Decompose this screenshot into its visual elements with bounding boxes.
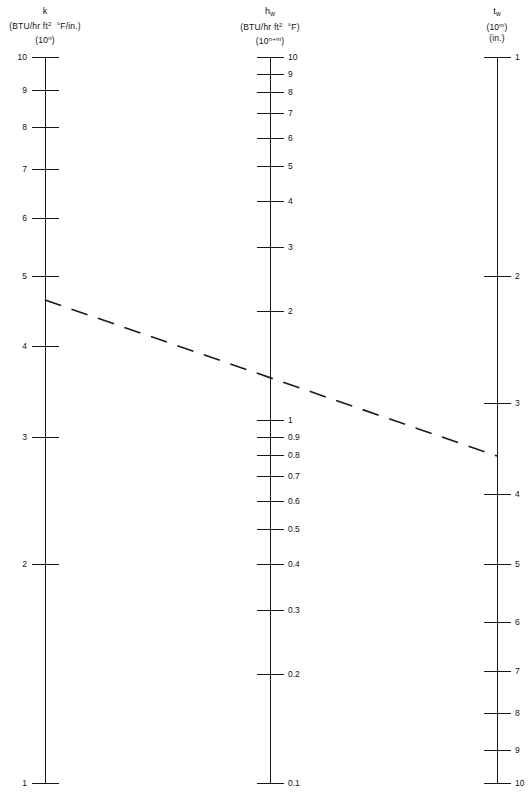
axis-decade: (10m) [437,19,530,33]
axis-tick-label: 1 [515,53,520,62]
axis-tick-label: 3 [0,433,27,442]
axis-symbol: k [0,6,140,18]
major-tick [257,74,284,75]
major-tick [32,169,59,170]
major-tick [257,166,284,167]
axis-tick-label: 3 [288,243,293,252]
major-tick [257,201,284,202]
axis-tick-label: 6 [0,214,27,223]
axis-tick-label: 7 [515,667,520,676]
major-tick [484,783,511,784]
axis-tick-label: 8 [0,123,27,132]
axis-units: (in.) [437,33,530,45]
major-tick [32,276,59,277]
major-tick [32,57,59,58]
major-tick [257,455,284,456]
axis-tick-label: 0.2 [288,670,300,679]
axis-units: (BTU/hr ft2 °F/in.) [0,18,140,32]
axis-tick-label: 2 [288,307,293,316]
axis-tick-label: 10 [288,53,297,62]
major-tick [257,57,284,58]
major-tick [32,437,59,438]
major-tick [484,622,511,623]
major-tick [32,564,59,565]
major-tick [257,138,284,139]
axis-symbol: hw [175,6,365,19]
axis-tick-label: 0.9 [288,433,300,442]
axis-tick-label: 10 [0,53,27,62]
axis-tick-label: 0.5 [288,525,300,534]
major-tick [257,674,284,675]
major-tick [257,247,284,248]
major-tick [257,476,284,477]
major-tick [484,403,511,404]
hw-axis-header: hw(BTU/hr ft2 °F)(10n+m) [175,6,365,48]
tw-axis-header: tw(10m)(in.) [437,6,530,45]
major-tick [257,529,284,530]
major-tick [257,610,284,611]
nomogram-figure: k(BTU/hr ft2 °F/in.)(10n) hw(BTU/hr ft2 … [0,0,530,797]
axis-tick-label: 2 [0,560,27,569]
axis-line [497,57,498,784]
axis-tick-label: 1 [0,779,27,788]
axis-tick-label: 9 [0,86,27,95]
axis-tick-label: 4 [288,197,293,206]
major-tick [32,346,59,347]
axis-decade: (10n) [0,32,140,46]
major-tick [257,113,284,114]
major-tick [484,750,511,751]
axis-tick-label: 6 [288,134,293,143]
major-tick [32,90,59,91]
axis-units: (BTU/hr ft2 °F) [175,19,365,33]
major-tick [32,127,59,128]
axis-decade: (10n+m) [175,33,365,47]
isopleth-line [0,0,530,797]
major-tick [257,420,284,421]
major-tick [257,437,284,438]
axis-tick-label: 6 [515,618,520,627]
axis-tick-label: 5 [0,272,27,281]
axis-tick-label: 5 [515,560,520,569]
major-tick [257,564,284,565]
axis-tick-label: 7 [288,109,293,118]
axis-tick-label: 0.6 [288,497,300,506]
axis-tick-label: 1 [288,416,293,425]
axis-tick-label: 5 [288,162,293,171]
major-tick [257,92,284,93]
axis-tick-label: 4 [0,342,27,351]
axis-tick-label: 0.7 [288,472,300,481]
axis-tick-label: 9 [288,70,293,79]
major-tick [257,311,284,312]
axis-line [45,57,46,784]
major-tick [484,564,511,565]
axis-tick-label: 0.3 [288,606,300,615]
axis-tick-label: 4 [515,490,520,499]
axis-tick-label: 3 [515,399,520,408]
axis-tick-label: 10 [515,779,524,788]
axis-tick-label: 0.8 [288,451,300,460]
k-axis-header: k(BTU/hr ft2 °F/in.)(10n) [0,6,140,46]
major-tick [32,218,59,219]
major-tick [484,276,511,277]
major-tick [484,713,511,714]
major-tick [484,57,511,58]
axis-tick-label: 8 [288,88,293,97]
major-tick [257,501,284,502]
isopleth-segment [45,300,497,456]
axis-tick-label: 0.1 [288,779,300,788]
axis-tick-label: 2 [515,272,520,281]
major-tick [257,783,284,784]
major-tick [484,671,511,672]
axis-tick-label: 7 [0,165,27,174]
major-tick [484,494,511,495]
axis-tick-label: 9 [515,746,520,755]
major-tick [32,783,59,784]
axis-tick-label: 8 [515,709,520,718]
axis-symbol: tw [437,6,530,19]
axis-tick-label: 0.4 [288,560,300,569]
